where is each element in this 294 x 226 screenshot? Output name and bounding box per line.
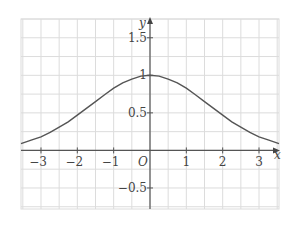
y-tick-label: −0.5 [118,181,147,195]
x-tick-label: −2 [65,155,83,169]
x-tick-label: −1 [102,155,120,169]
y-axis-label: y [138,16,146,30]
x-tick-label: 1 [183,155,191,169]
y-axis-arrow-icon [147,17,153,24]
x-tick-label: 2 [219,155,227,169]
origin-label: O [138,155,148,169]
y-tick-label: 0.5 [128,106,147,120]
y-tick-label: 1.5 [128,31,147,45]
x-axis-label: x [274,148,281,162]
chart: −3−2−11231.510.5−0.5 x y O [0,0,294,226]
x-tick-label: 3 [255,155,263,169]
x-tick-label: −3 [29,155,47,169]
